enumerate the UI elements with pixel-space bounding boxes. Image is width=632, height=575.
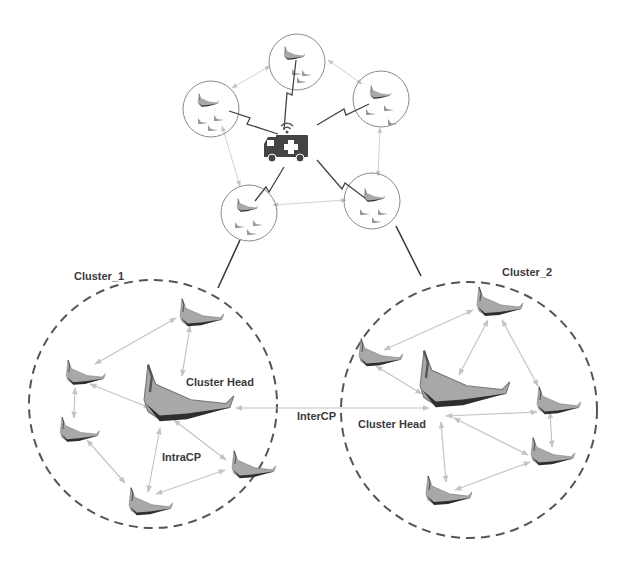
cluster2-drones	[359, 287, 581, 505]
drone-group-right	[353, 71, 409, 127]
uav-icon	[180, 299, 224, 327]
drone-group-bottom-left	[221, 185, 277, 241]
cluster-head-uav-icon	[144, 365, 234, 422]
drone-group-bottom-right	[344, 173, 400, 229]
cluster-head-uav-icon	[420, 351, 510, 408]
uav-icon	[129, 488, 173, 516]
uav-swarm-diagram	[0, 0, 632, 575]
uplink-cluster1	[218, 240, 240, 288]
cluster1-head-label: Cluster Head	[186, 376, 254, 388]
uav-icon	[232, 451, 276, 479]
intracp-label: IntraCP	[162, 451, 201, 463]
uplink-cluster2	[396, 226, 421, 276]
drone-group-left	[183, 81, 239, 137]
uav-icon	[66, 360, 105, 385]
cluster1-label: Cluster_1	[74, 270, 124, 282]
uav-icon	[60, 417, 99, 442]
uav-icon	[359, 339, 403, 367]
uav-icon	[426, 476, 472, 505]
uav-icon	[537, 387, 581, 415]
uav-icon	[531, 438, 575, 466]
ambulance-icon	[264, 123, 308, 162]
drone-group-top	[269, 34, 325, 90]
cluster1-drones	[60, 299, 275, 516]
cluster2-label: Cluster_2	[502, 266, 552, 278]
cluster2-head-label: Cluster Head	[358, 418, 426, 430]
intercp-label: InterCP	[297, 410, 336, 422]
